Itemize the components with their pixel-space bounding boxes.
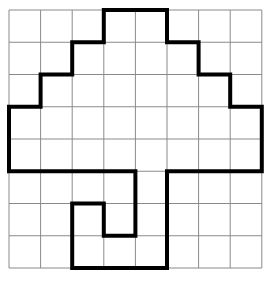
grid-diagram [0,0,269,282]
